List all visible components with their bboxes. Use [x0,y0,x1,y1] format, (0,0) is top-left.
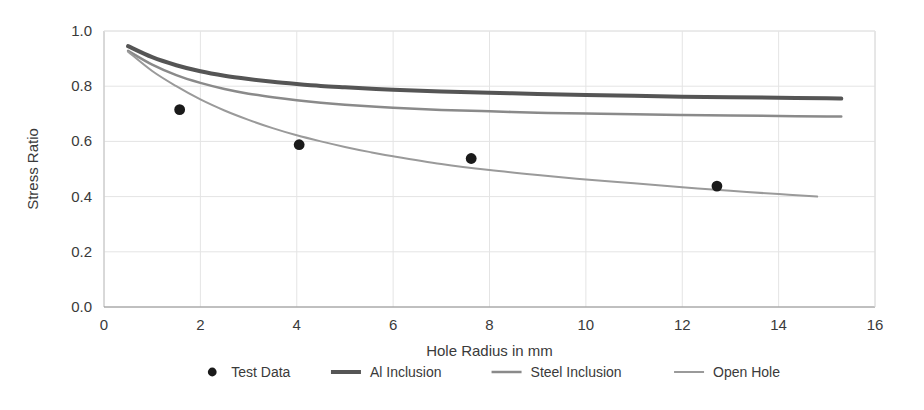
legend-item: Test Data [208,364,291,380]
legend-marker-circle [208,368,217,377]
stress-ratio-chart: 0.00.20.40.60.81.00246810121416Hole Radi… [0,0,924,410]
y-tick-labels: 0.00.20.40.60.81.0 [71,22,92,315]
y-tick-label: 0.6 [71,132,92,149]
data-point-marker [466,153,477,164]
data-point-marker [294,139,305,150]
x-axis-title: Hole Radius in mm [426,342,553,359]
chart-svg: 0.00.20.40.60.81.00246810121416Hole Radi… [0,0,924,410]
legend-label: Steel Inclusion [531,364,622,380]
y-axis-title: Stress Ratio [24,128,41,210]
x-tick-labels: 0246810121416 [100,316,884,333]
legend-label: Open Hole [713,364,780,380]
x-tick-label: 14 [770,316,787,333]
legend-item: Al Inclusion [331,364,442,380]
x-tick-label: 4 [293,316,301,333]
legend: Test DataAl InclusionSteel InclusionOpen… [208,364,780,380]
y-tick-label: 0.8 [71,77,92,94]
x-tick-label: 6 [389,316,397,333]
x-tick-label: 8 [485,316,493,333]
y-tick-label: 0.4 [71,188,92,205]
data-point-marker [712,181,723,192]
y-tick-label: 0.2 [71,243,92,260]
legend-item: Open Hole [674,364,780,380]
legend-label: Test Data [231,364,290,380]
legend-label: Al Inclusion [370,364,442,380]
x-tick-label: 10 [578,316,595,333]
x-tick-label: 16 [867,316,884,333]
y-tick-label: 0.0 [71,298,92,315]
legend-item: Steel Inclusion [492,364,622,380]
x-tick-label: 12 [674,316,691,333]
y-tick-label: 1.0 [71,22,92,39]
x-tick-label: 2 [196,316,204,333]
x-tick-label: 0 [100,316,108,333]
data-point-marker [174,104,185,115]
